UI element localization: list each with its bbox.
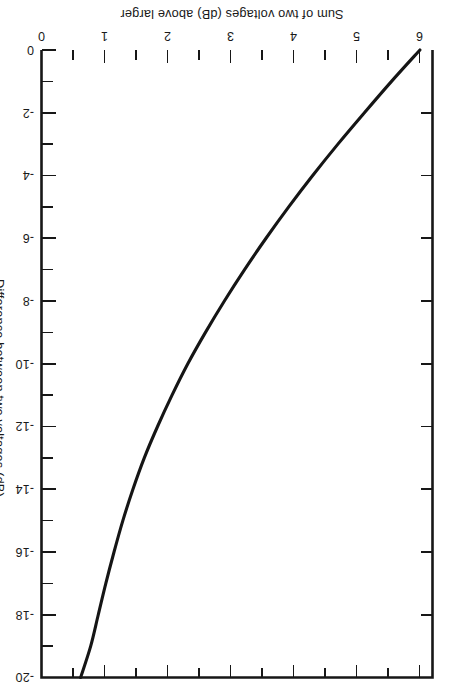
xtick-label-m8: -8 <box>22 294 34 308</box>
ytick-label-3: 3 <box>227 29 234 43</box>
xtick-label-m10: -10 <box>15 357 34 371</box>
ytick-label-2: 2 <box>164 29 171 43</box>
data-curve <box>81 50 420 678</box>
chart-plot-area <box>0 0 454 691</box>
xtick-label-m6: -6 <box>22 231 34 245</box>
yaxis-title: Sum of two voltages (dB) above larger <box>120 7 343 22</box>
xtick-label-m18: -18 <box>15 608 34 622</box>
xtick-label-m16: -16 <box>15 545 34 559</box>
ytick-label-1: 1 <box>101 29 108 43</box>
figure-rotation-wrapper: 0 -2 -4 -6 -8 -10 -12 -14 -16 -18 -20 0 … <box>0 0 454 691</box>
yaxis-mirror-ticks <box>73 665 420 678</box>
xtick-label-m14: -14 <box>15 482 34 496</box>
ytick-label-6: 6 <box>416 29 423 43</box>
ytick-label-4: 4 <box>290 29 297 43</box>
xtick-label-m20: -20 <box>15 671 34 685</box>
xaxis-mirror-ticks <box>421 113 433 615</box>
chart-figure: 0 -2 -4 -6 -8 -10 -12 -14 -16 -18 -20 0 … <box>0 0 454 691</box>
plot-frame <box>42 50 433 678</box>
xtick-label-m2: -2 <box>22 106 34 120</box>
ytick-label-5: 5 <box>353 29 360 43</box>
xaxis-title: Difference between two voltages (dB) <box>0 279 7 497</box>
xtick-label-m12: -12 <box>15 420 34 434</box>
xtick-label-0: 0 <box>27 43 34 57</box>
xtick-label-m4: -4 <box>22 169 34 183</box>
yaxis-major-ticks <box>42 50 420 63</box>
ytick-label-0: 0 <box>38 29 45 43</box>
